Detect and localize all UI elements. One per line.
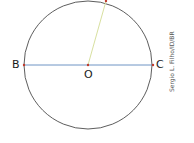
radius-o-top <box>88 1 106 65</box>
label-o: O <box>84 69 93 80</box>
point-b <box>23 64 25 66</box>
image-credit: Sergio L. Filho/ID/BR <box>168 31 175 92</box>
point-top <box>105 0 107 2</box>
point-c <box>152 64 154 66</box>
point-o <box>87 64 89 66</box>
label-c: C <box>156 59 164 70</box>
label-b: B <box>12 59 20 70</box>
circle-diagram <box>0 0 194 143</box>
